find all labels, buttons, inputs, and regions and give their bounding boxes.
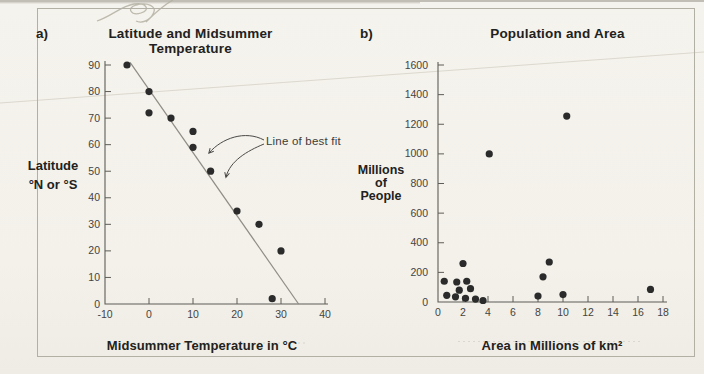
data-point — [546, 258, 553, 265]
x-tick-label: 6 — [510, 306, 516, 318]
x-tick-label: 4 — [485, 306, 491, 318]
y-tick-label: 0 — [94, 298, 100, 310]
best-fit-line — [130, 62, 299, 304]
x-tick-label: 8 — [535, 306, 541, 318]
data-point — [563, 113, 570, 120]
y-tick-label: 1600 — [405, 59, 429, 71]
y-tick-label: 1000 — [405, 147, 429, 159]
x-tick-label: 0 — [435, 306, 441, 318]
data-point — [472, 295, 479, 302]
data-point — [167, 115, 174, 122]
data-point — [486, 150, 493, 157]
data-point — [441, 278, 448, 285]
y-tick-label: 1200 — [405, 118, 429, 130]
x-tick-label: 20 — [231, 308, 243, 320]
data-point — [453, 278, 460, 285]
y-tick-label: 0 — [422, 296, 428, 308]
charts-layer: -100102030400102030405060708090024681012… — [0, 0, 704, 374]
data-point — [443, 292, 450, 299]
x-tick-label: 10 — [187, 308, 199, 320]
x-tick-label: 2 — [460, 306, 466, 318]
y-tick-label: 50 — [88, 165, 100, 177]
chart-b: 0246810121416180200400600800100012001400… — [405, 59, 669, 319]
data-point — [467, 285, 474, 292]
data-point — [479, 297, 486, 304]
data-point — [233, 207, 240, 214]
y-tick-label: 200 — [410, 266, 428, 278]
x-tick-label: 16 — [632, 306, 644, 318]
data-point — [534, 292, 541, 299]
data-point — [189, 144, 196, 151]
data-point — [456, 287, 463, 294]
data-point — [559, 291, 566, 298]
annotation-arrow-upper — [209, 136, 264, 153]
data-point — [189, 128, 196, 135]
y-tick-label: 90 — [88, 59, 100, 71]
data-point — [123, 61, 130, 68]
data-point — [145, 88, 152, 95]
data-point — [255, 221, 262, 228]
y-tick-label: 800 — [410, 177, 428, 189]
data-point — [459, 260, 466, 267]
y-tick-label: 40 — [88, 191, 100, 203]
annotation-arrow-lower — [226, 144, 264, 177]
x-tick-label: 10 — [557, 306, 569, 318]
x-tick-label: 18 — [657, 306, 669, 318]
annotation-arrows — [209, 136, 264, 177]
data-point — [145, 109, 152, 116]
data-point — [277, 247, 284, 254]
axes — [105, 61, 328, 304]
y-tick-label: 10 — [88, 271, 100, 283]
y-tick-label: 80 — [88, 85, 100, 97]
x-tick-label: 14 — [607, 306, 619, 318]
x-tick-label: 40 — [319, 308, 331, 320]
data-point — [452, 293, 459, 300]
x-tick-label: 0 — [146, 308, 152, 320]
x-tick-label: 30 — [275, 308, 287, 320]
x-tick-label: 12 — [582, 306, 594, 318]
data-point — [463, 278, 470, 285]
data-point — [269, 295, 276, 302]
data-point — [207, 168, 214, 175]
y-tick-label: 1400 — [405, 88, 429, 100]
x-tick-label: -10 — [97, 308, 112, 320]
data-point — [539, 273, 546, 280]
data-point — [647, 286, 654, 293]
chart-a: -100102030400102030405060708090 — [88, 59, 331, 321]
data-point — [462, 295, 469, 302]
axes — [438, 62, 667, 302]
y-tick-label: 30 — [88, 218, 100, 230]
y-tick-label: 70 — [88, 112, 100, 124]
y-tick-label: 600 — [410, 207, 428, 219]
scanned-textbook-page: a) Latitude and Midsummer Temperature La… — [0, 0, 704, 374]
y-tick-label: 20 — [88, 244, 100, 256]
y-tick-label: 400 — [410, 236, 428, 248]
y-tick-label: 60 — [88, 138, 100, 150]
